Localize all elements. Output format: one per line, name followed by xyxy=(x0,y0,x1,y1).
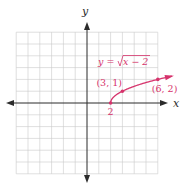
y-axis-arrow-up xyxy=(84,22,90,30)
x-axis-arrow-left xyxy=(6,100,14,106)
point-label: (3, 1) xyxy=(96,77,122,88)
curve-arrowhead xyxy=(165,75,174,80)
points: 2(3, 1)(6, 2) xyxy=(96,77,177,117)
data-point xyxy=(156,78,160,82)
equation-radicand: x − 2 xyxy=(123,56,148,67)
point-label: (6, 2) xyxy=(152,83,178,94)
point-label: 2 xyxy=(108,106,114,117)
data-point xyxy=(109,101,113,105)
x-axis-label: x xyxy=(173,97,180,110)
y-axis-label: y xyxy=(81,5,89,18)
equation-lhs: y = xyxy=(97,56,114,67)
y-axis-arrow-down xyxy=(84,175,90,183)
square-root-graph: x y 2(3, 1)(6, 2) y = x − 2 xyxy=(0,0,184,188)
x-axis-arrow-right xyxy=(160,100,168,106)
data-point xyxy=(121,89,125,93)
equation-label: y = x − 2 xyxy=(97,56,150,68)
